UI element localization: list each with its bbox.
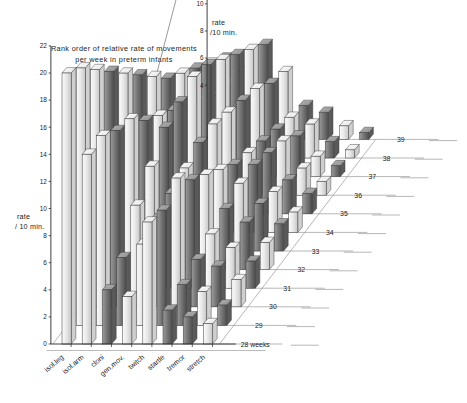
bar: [163, 305, 177, 344]
left-axis-tick-label: 10: [40, 205, 48, 212]
bar: [274, 219, 288, 252]
week-axis-label: 31: [283, 285, 291, 292]
left-axis-tick-label: 22: [40, 42, 48, 49]
left-axis-label-line2: / 10 min.: [15, 222, 44, 231]
bar: [319, 107, 333, 140]
week-axis-label: 37: [369, 173, 377, 180]
week-axis-label: 33: [312, 248, 320, 255]
top-axis-tick-label: 4: [200, 82, 204, 89]
bar: [102, 284, 116, 344]
bar: [123, 291, 137, 344]
week-axis-label: 34: [326, 229, 334, 236]
bar: [311, 151, 325, 177]
chart-title-line1: Rank order of relative rate of movements: [51, 44, 197, 53]
bar: [82, 149, 96, 344]
bar: [62, 68, 76, 344]
left-axis-tick-label: 8: [43, 232, 47, 239]
bar: [289, 207, 303, 233]
bar: [183, 312, 197, 345]
bar: [232, 274, 246, 307]
top-axis-label-line2: /10 min.: [210, 28, 237, 37]
week-axis-label: 38: [383, 155, 391, 162]
bar: [218, 300, 232, 326]
week-axis-label: 35: [340, 210, 348, 217]
left-axis-tick-label: 20: [40, 69, 48, 76]
week-axis-label: 39: [397, 136, 405, 143]
left-axis-tick-label: 4: [43, 286, 47, 293]
left-axis-label-line1: rate: [17, 212, 30, 221]
bar: [303, 188, 317, 214]
week-axis-label: 29: [255, 322, 263, 329]
left-axis-tick-label: 12: [40, 178, 48, 185]
bar: [260, 237, 274, 270]
bar: [246, 256, 260, 289]
bar: [339, 120, 353, 139]
left-axis-tick-label: 14: [40, 151, 48, 158]
left-axis-tick-label: 2: [43, 313, 47, 320]
week-axis-label: 28 weeks: [241, 341, 271, 348]
top-axis-tick-label: 8: [200, 27, 204, 34]
week-axis-label: 30: [269, 303, 277, 310]
top-axis-tick-label: 10: [196, 0, 204, 7]
bar: [203, 318, 217, 344]
left-axis-tick-label: 18: [40, 96, 48, 103]
chart-svg: Rank order of relative rate of movements…: [0, 0, 467, 403]
top-axis-label-line1: rate: [212, 18, 225, 27]
left-axis-tick-label: 6: [43, 259, 47, 266]
left-axis-tick-label: 0: [43, 340, 47, 347]
bar: [143, 217, 157, 344]
week-axis-label: 36: [354, 192, 362, 199]
left-axis-tick-label: 16: [40, 124, 48, 131]
bar: [317, 176, 331, 195]
week-axis-label: 32: [298, 266, 306, 273]
bar: [325, 136, 339, 158]
chart-figure: Rank order of relative rate of movements…: [0, 0, 467, 403]
top-axis-tick-label: 6: [200, 54, 204, 61]
